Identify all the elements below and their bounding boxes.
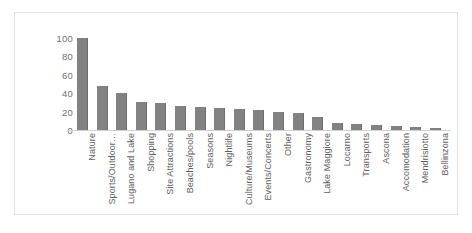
x-axis-tick-label: Locarno [342,133,352,166]
bar [312,117,323,130]
bar [273,112,284,130]
bar [234,109,245,130]
x-axis-tick-label: Site Attractions [165,133,175,195]
x-axis-tick-label: Nature [87,133,97,161]
bar [195,107,206,130]
x-axis-tick-label: Seasons [205,133,215,169]
x-axis-tick-label: Lugano and Lake [126,133,136,204]
bar-series [67,38,451,130]
x-axis-tick-label: Gastronomy [303,133,313,183]
x-axis-tick-label: Sports/Outdoor… [107,133,117,205]
bar [332,123,343,130]
bar [253,110,264,130]
bar [116,93,127,130]
bar [155,103,166,130]
x-axis-tick-label: Lake Maggiore [322,133,332,194]
bar [136,102,147,130]
chart-container: 100806040200 NatureSports/Outdoor…Lugano… [14,12,458,215]
x-axis-labels: NatureSports/Outdoor…Lugano and LakeShop… [67,133,451,219]
bar [175,106,186,130]
x-axis-tick-label: Other [283,133,293,156]
x-axis-tick-label: Bellinzona [440,133,450,176]
x-axis-line [67,130,451,131]
x-axis-tick-label: Accomodation [401,133,411,191]
bar [77,38,88,130]
bar [214,108,225,130]
x-axis-tick-label: Ascona [381,133,391,164]
x-axis-tick-label: Events/Concerts [263,133,273,201]
x-axis-tick-label: Transports [361,133,371,177]
x-axis-tick-label: Nightlife [224,133,234,166]
x-axis-tick-label: Culture/Museums [244,133,254,205]
x-axis-tick-label: Shopping [146,133,156,172]
bar [97,86,108,130]
x-axis-tick-label: Mendrisiotto [420,133,430,183]
bar [293,113,304,130]
x-axis-tick-label: Beaches/pools [185,133,195,193]
